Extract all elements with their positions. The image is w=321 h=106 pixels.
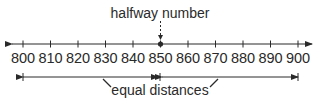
tick-label: 880	[231, 51, 255, 66]
tick-label: 800	[11, 51, 35, 66]
tick-label: 900	[286, 51, 310, 66]
right-label-pointer	[210, 79, 218, 87]
tick-label: 830	[93, 51, 117, 66]
halfway-label: halfway number	[111, 6, 210, 20]
tick-label: 850	[148, 51, 172, 66]
halfway-dot	[158, 41, 163, 46]
equal-distances-label: equal distances	[111, 83, 208, 97]
left-label-pointer	[103, 79, 111, 87]
tick-label: 870	[203, 51, 227, 66]
tick-label: 840	[121, 51, 145, 66]
tick-label: 890	[258, 51, 282, 66]
tick-label: 860	[176, 51, 200, 66]
tick-label: 810	[38, 51, 62, 66]
tick-label: 820	[66, 51, 90, 66]
